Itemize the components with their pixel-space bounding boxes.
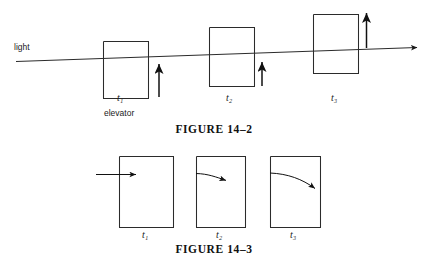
figure-14-3-graphic: [96, 157, 321, 228]
figures-canvas: [0, 0, 428, 274]
light-beam-arrow-icon-t2: [196, 174, 226, 181]
frame-label-t3-upper: t₃: [331, 92, 337, 103]
light-ray-label: light: [14, 42, 30, 52]
figure-caption-14-2: FIGURE 14–2: [0, 123, 428, 135]
elevator-box-icon-t2: [210, 28, 255, 87]
light-beam-arrow-icon-t3: [270, 173, 315, 189]
elevator-box-icon-lower-t2: [197, 157, 246, 228]
elevator-box-icon-t1: [104, 42, 149, 99]
frame-label-t3-lower: t₃: [290, 229, 296, 240]
frame-label-t1-upper: t₁: [117, 92, 123, 103]
light-ray-arrow-icon: [16, 48, 417, 62]
figure-14-2-graphic: [16, 13, 417, 99]
frame-label-t1-lower: t₁: [142, 229, 148, 240]
elevator-box-icon-lower-t1: [120, 157, 174, 228]
frame-label-t2-upper: t₂: [226, 92, 232, 103]
figure-caption-14-3: FIGURE 14–3: [0, 243, 428, 255]
figure-page: light t₁ elevator t₂ t₃ FIGURE 14–2 t₁ t…: [0, 0, 428, 274]
elevator-box-icon-lower-t3: [271, 157, 321, 228]
frame-label-t2-lower: t₂: [216, 229, 222, 240]
elevator-label: elevator: [104, 108, 134, 118]
elevator-box-icon-t3: [314, 15, 359, 74]
